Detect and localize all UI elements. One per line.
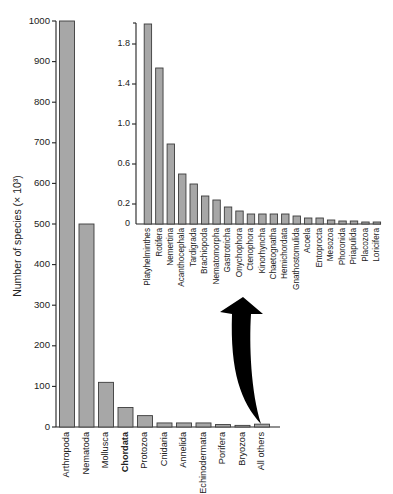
category-label-ctenophora: Ctenophora: [246, 228, 255, 271]
category-label-gastrotricha: Gastrotricha: [223, 228, 232, 273]
bar-chaetognatha: [270, 214, 277, 224]
category-label-priapulida: Priapulida: [349, 228, 358, 265]
category-label-onychophora: Onychophora: [235, 228, 244, 278]
main-y-tick-label: 900: [34, 55, 50, 66]
bar-acoela: [305, 218, 312, 224]
bar-gnathostomulida: [293, 216, 300, 224]
bar-protozoa: [138, 416, 153, 427]
category-label-bryozoa: Bryozoa: [237, 431, 247, 466]
inset-category-labels: PlatyhelminthesRotiferaNemertinaAcanthoc…: [143, 228, 381, 290]
bar-echinodermata: [196, 423, 211, 427]
bar-nematomorpha: [213, 200, 220, 224]
category-label-placozoa: Placozoa: [361, 228, 370, 262]
bar-brachiopoda: [201, 196, 208, 224]
inset-y-tick-label: 0.2: [117, 198, 130, 208]
category-label-tardigrada: Tardigrada: [189, 228, 198, 267]
bar-onychophora: [236, 211, 243, 224]
bar-porifera: [216, 425, 231, 427]
main-y-tick-label: 500: [34, 218, 50, 229]
bar-kinorhyncha: [259, 214, 266, 224]
main-y-axis-title: Number of species (× 10³): [11, 175, 23, 297]
bar-placozoa: [362, 222, 369, 224]
bar-nemertina: [167, 144, 174, 224]
category-label-arthropoda: Arthropoda: [61, 431, 71, 477]
inset-y-tick-label: 1.0: [117, 118, 130, 128]
bar-tardigrada: [190, 184, 197, 224]
inset-bars: [144, 24, 380, 224]
category-label-nematoda: Nematoda: [81, 431, 91, 474]
bar-bryozoa: [235, 425, 250, 427]
main-y-tick-label: 100: [34, 380, 50, 391]
inset-bar-chart: 00.20.61.01.41.8 PlatyhelminthesRotifera…: [117, 23, 381, 290]
category-label-loricifera: Loricifera: [372, 228, 381, 262]
main-y-tick-label: 0: [45, 421, 50, 432]
bar-priapulida: [350, 221, 357, 224]
species-bar-chart: Number of species (× 10³) 01002003004005…: [0, 0, 393, 494]
category-label-nematomorpha: Nematomorpha: [212, 228, 221, 285]
category-label-hemichordata: Hemichordata: [280, 228, 289, 279]
category-label-cnidaria: Cnidaria: [159, 431, 169, 466]
bar-hemichordata: [282, 214, 289, 224]
category-label-brachiopoda: Brachiopoda: [200, 228, 209, 274]
category-label-phoronida: Phoronida: [338, 228, 347, 266]
category-label-porifera: Porifera: [217, 431, 227, 464]
category-label-acoela: Acoela: [303, 228, 312, 253]
bar-chordata: [118, 408, 133, 427]
category-label-all-others: All others: [256, 432, 266, 471]
category-label-protozoa: Protozoa: [139, 431, 149, 469]
main-y-tick-label: 200: [34, 339, 50, 350]
bar-all-others: [255, 424, 270, 427]
category-label-mesozoa: Mesozoa: [326, 228, 335, 262]
bar-rotifera: [156, 68, 163, 224]
main-y-tick-label: 1000: [29, 15, 50, 26]
category-label-chordata: Chordata: [120, 431, 130, 472]
inset-y-tick-label: 0: [125, 218, 130, 228]
main-y-tick-label: 400: [34, 258, 50, 269]
category-label-gnathostomulida: Gnathostomulida: [292, 228, 301, 290]
bar-acanthocephala: [179, 174, 186, 224]
category-label-echinodermata: Echinodermata: [198, 431, 208, 494]
curved-arrow-icon: [220, 297, 263, 424]
bar-arthropoda: [60, 21, 75, 427]
category-label-mollusca: Mollusca: [100, 431, 110, 468]
bar-entoprocta: [316, 218, 323, 224]
bar-gastrotricha: [224, 207, 231, 224]
inset-y-tick-label: 1.4: [117, 78, 130, 88]
category-label-entoprocta: Entoprocta: [315, 228, 324, 268]
bar-platyhelminthes: [144, 24, 151, 224]
category-label-rotifera: Rotifera: [155, 228, 164, 257]
inset-y-tick-label: 0.6: [117, 158, 130, 168]
main-y-tick-label: 800: [34, 96, 50, 107]
category-label-kinorhyncha: Kinorhyncha: [258, 228, 267, 274]
category-label-acanthocephala: Acanthocephala: [177, 228, 186, 287]
bar-ctenophora: [247, 214, 254, 224]
inset-y-tick-label: 1.8: [117, 38, 130, 48]
main-y-tick-label: 600: [34, 177, 50, 188]
main-y-tick-label: 700: [34, 136, 50, 147]
category-label-nemertina: Nemertina: [166, 228, 175, 266]
bar-nematoda: [79, 224, 94, 427]
bar-mesozoa: [327, 220, 334, 224]
bar-annelida: [177, 423, 192, 427]
main-category-labels: ArthropodaNematodaMolluscaChordataProtoz…: [61, 431, 266, 494]
main-y-tick-label: 300: [34, 299, 50, 310]
bar-loricifera: [373, 222, 380, 224]
category-label-annelida: Annelida: [178, 431, 188, 468]
bar-mollusca: [99, 382, 114, 427]
category-label-chaetognatha: Chaetognatha: [269, 228, 278, 280]
bar-cnidaria: [157, 423, 172, 427]
bar-phoronida: [339, 221, 346, 224]
category-label-platyhelminthes: Platyhelminthes: [143, 228, 152, 286]
